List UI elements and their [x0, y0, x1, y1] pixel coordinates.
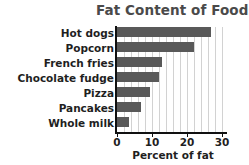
bar	[117, 102, 141, 112]
plot-area	[117, 27, 225, 132]
category-label: Hot dogs	[0, 28, 114, 39]
category-label: Chocolate fudge	[0, 73, 114, 84]
x-axis-title: Percent of fat	[117, 149, 229, 161]
bar	[117, 57, 162, 67]
chart-title: Fat Content of Foods	[96, 2, 246, 18]
category-label: Pancakes	[0, 103, 114, 114]
category-label: French fries	[0, 58, 114, 69]
bar	[117, 42, 194, 52]
category-label: Popcorn	[0, 43, 114, 54]
bar	[117, 27, 211, 37]
x-axis-line	[115, 132, 227, 134]
x-tick-label: 20	[175, 136, 199, 148]
x-tick-label: 0	[105, 136, 129, 148]
y-axis-line	[115, 26, 117, 133]
bar-chart: Fat Content of Foods Hot dogsPopcornFren…	[0, 0, 249, 165]
category-label: Whole milk	[0, 118, 114, 129]
category-axis-labels: Hot dogsPopcornFrench friesChocolate fud…	[0, 27, 114, 132]
x-tick-label: 30	[210, 136, 234, 148]
x-tick-label: 10	[140, 136, 164, 148]
bar-series	[117, 27, 225, 132]
bar	[117, 72, 159, 82]
category-label: Pizza	[0, 88, 114, 99]
bar	[117, 87, 150, 97]
bar	[117, 117, 129, 127]
